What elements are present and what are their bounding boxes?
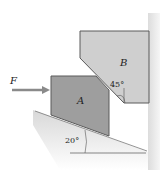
block-a-label: A bbox=[76, 95, 84, 106]
force-label: F bbox=[9, 75, 18, 86]
block-b-label: B bbox=[119, 57, 127, 68]
incline-angle-label: 20° bbox=[65, 136, 79, 145]
vertical-wall bbox=[148, 13, 160, 170]
wedge-angle-label: 45° bbox=[110, 80, 124, 89]
wedge-diagram: F A B 45° 20° bbox=[0, 0, 167, 170]
force-arrow-head-icon bbox=[42, 86, 50, 94]
